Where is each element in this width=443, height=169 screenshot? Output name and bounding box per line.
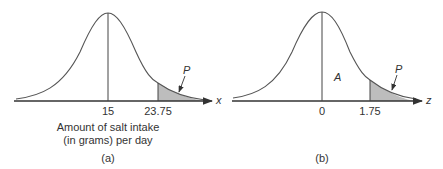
panel-b-curve xyxy=(232,12,422,101)
panel-label-a: (a) xyxy=(101,152,114,164)
shaded-label-p-a: P xyxy=(183,64,190,76)
tick-label-cutoff-a: 23.75 xyxy=(144,105,172,117)
axis-symbol-x: x xyxy=(216,94,222,106)
panel-label-b: (b) xyxy=(315,152,328,164)
axis-symbol-z: z xyxy=(426,94,432,106)
tick-label-mean-a: 15 xyxy=(102,105,114,117)
x-axis-title-line2: (in grams) per day xyxy=(63,134,152,146)
shaded-label-p-b: P xyxy=(395,63,402,75)
tick-label-cutoff-b: 1.75 xyxy=(359,105,380,117)
region-label-a: A xyxy=(334,71,341,83)
tick-label-mean-b: 0 xyxy=(319,105,325,117)
x-axis-title-line1: Amount of salt intake xyxy=(57,121,160,133)
panel-a-curve xyxy=(14,13,212,101)
